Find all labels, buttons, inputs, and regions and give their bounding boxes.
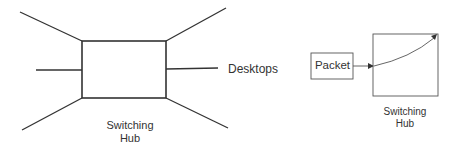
arrowhead-icon xyxy=(431,34,437,40)
lower-right-connection xyxy=(166,98,228,128)
desktops-label: Desktops xyxy=(228,63,278,76)
right-hub-label-line2: Hub xyxy=(372,118,438,130)
mid-right-connection xyxy=(166,68,218,69)
switching-path-curve xyxy=(374,38,434,66)
upper-left-connection xyxy=(20,12,82,41)
diagram-canvas: Desktops Switching Hub Packet Switching … xyxy=(0,0,463,144)
left-hub-label-line2: Hub xyxy=(95,132,165,144)
upper-right-connection xyxy=(166,8,226,41)
packet-label: Packet xyxy=(311,59,354,72)
left-hub-label: Switching Hub xyxy=(95,119,165,144)
right-hub-label: Switching Hub xyxy=(372,106,438,130)
right-switching-hub-box xyxy=(373,34,438,96)
left-hub-label-line1: Switching xyxy=(95,119,165,132)
left-switching-hub-box xyxy=(82,41,166,98)
right-hub-label-line1: Switching xyxy=(372,106,438,118)
lower-left-connection xyxy=(22,98,82,130)
